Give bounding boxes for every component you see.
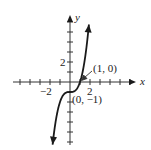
point-label-1-0: (1, 0) bbox=[93, 63, 117, 74]
y-axis-arrowhead bbox=[67, 15, 73, 22]
y-tick-label-2: 2 bbox=[60, 57, 66, 68]
function-curve bbox=[53, 24, 89, 144]
x-axis-label: x bbox=[140, 76, 145, 87]
arrowheads bbox=[50, 15, 136, 145]
x-axis-arrowhead bbox=[129, 79, 136, 85]
x-tick-label-neg2: −2 bbox=[40, 86, 52, 97]
graph-figure: y x −2 2 2 (1, 0) (0, −1) bbox=[0, 0, 151, 150]
point-label-0-neg1: (0, −1) bbox=[72, 94, 102, 105]
y-axis-label: y bbox=[75, 12, 80, 23]
axes bbox=[13, 19, 132, 145]
